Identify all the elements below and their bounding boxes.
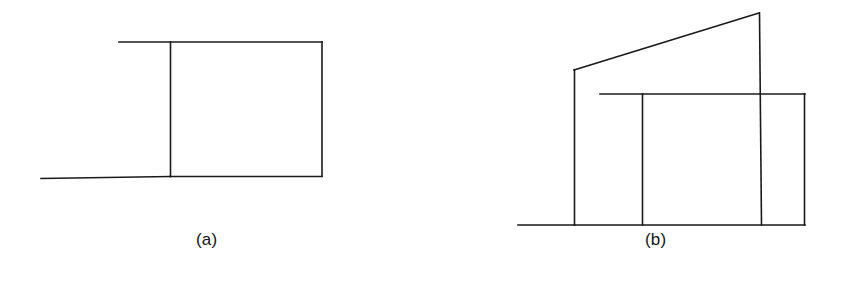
figure-a-caption-label: (a)	[196, 230, 217, 250]
figure-b-caption-label: (b)	[645, 230, 666, 250]
figure-page: (a) (b)	[0, 0, 841, 282]
line-drawing-canvas	[0, 0, 841, 282]
